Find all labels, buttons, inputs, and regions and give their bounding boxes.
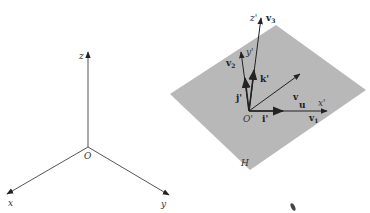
i-prime-label: i' [262,114,268,124]
right-plane-diagram: H z' v3 y' v2 k' v j' u x' v1 O' i' [170,13,366,170]
x-axis-label: x [8,198,13,208]
left-axes-diagram: z x y O [7,51,169,209]
origin-prime-label: O' [243,114,253,124]
v3-label: v3 [265,13,275,24]
y-axis [88,147,169,195]
figure-canvas: z x y O H z' v3 y' v2 k' v j' u x' v1 O'… [0,0,370,213]
x-axis [7,147,88,194]
v-label: v [292,92,299,102]
origin-label: O [84,151,92,161]
y-prime-label: y' [245,47,254,57]
z-axis-label: z [78,51,84,61]
j-prime-label: j' [235,93,242,103]
plane-label: H [240,158,249,168]
x-prime-label: x' [318,98,326,108]
z-prime-label: z' [249,13,257,23]
ink-smudge [289,203,296,212]
k-prime-label: k' [260,74,269,84]
y-axis-label: y [160,199,167,209]
u-label: u [299,100,306,110]
